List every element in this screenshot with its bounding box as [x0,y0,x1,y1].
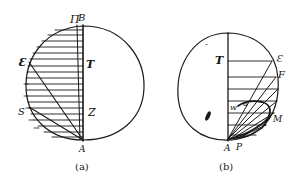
figure-a-label-A: A [78,144,86,154]
figure-b-label-M: M [272,114,283,124]
figure-a: Π B Ɛ T S Z A (a) [18,12,144,172]
figure-b-label-A: A [223,143,231,153]
figure-b-label-a: a [243,99,248,108]
figure-a-label-E: Ɛ [18,56,27,69]
figure-a-label-B: B [77,12,85,23]
figure-b-label-T: T [215,54,224,67]
figure-a-label-Z: Z [87,106,96,119]
figure-b: ″ T Ɛ F w a M A P (b) [178,33,286,172]
diagram-canvas: Π B Ɛ T S Z A (a) [0,0,305,181]
figure-a-caption: (a) [75,161,89,172]
figure-a-label-S: S [18,106,25,117]
figure-a-hatching [26,30,83,137]
figure-a-label-T: T [86,58,95,71]
figure-a-inner-line [77,25,80,140]
figure-b-label-P: P [235,142,243,152]
figure-b-label-w: w [230,103,237,112]
figure-b-caption: (b) [219,161,233,172]
figure-b-mark [204,111,212,122]
figure-b-label-E: Ɛ [276,53,283,64]
figure-b-label-marks: ″ [205,42,208,51]
figure-b-label-F: F [277,69,286,80]
figure-b-fan-lines [228,61,278,139]
figure-b-horizontals [228,61,278,135]
